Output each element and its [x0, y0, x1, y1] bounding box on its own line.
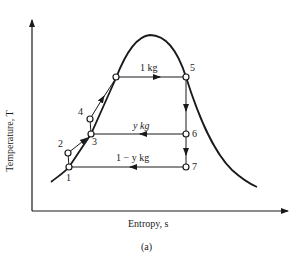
state-point-6 [183, 131, 189, 137]
state-point-1 [66, 164, 72, 170]
state-label-6: 6 [192, 129, 197, 139]
state-label-2: 2 [58, 139, 63, 149]
state-point-5 [183, 74, 189, 80]
x-axis-label: Entropy, s [128, 219, 168, 229]
state-label-5: 5 [190, 63, 195, 73]
flow-label-bottom: 1 − y kg [116, 153, 149, 163]
flow-label-middle: y kg [133, 121, 149, 131]
state-point-sat-liquid [113, 74, 119, 80]
state-label-4: 4 [78, 107, 83, 117]
state-point-7 [183, 164, 189, 170]
line-4-top-cont [103, 78, 116, 98]
figure-caption: (a) [141, 242, 152, 252]
state-label-3: 3 [92, 137, 97, 147]
y-axis-label: Temperature, T [4, 110, 15, 171]
state-point-4 [87, 116, 93, 122]
state-label-1: 1 [66, 173, 71, 183]
flow-label-top: 1 kg [140, 63, 158, 73]
state-label-7: 7 [192, 162, 197, 172]
state-point-2 [65, 150, 71, 156]
